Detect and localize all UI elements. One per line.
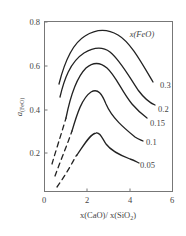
- curve-label: 0.2: [158, 104, 169, 114]
- curve-0.1: [72, 91, 143, 141]
- chart: 0.8 0.6 0.4 0.2 a(FeO) 0 2 4 6 x(CaO)/ x…: [0, 0, 186, 236]
- y-tick-label: 0.2: [29, 148, 40, 158]
- y-axis-label: a(FeO): [14, 98, 26, 117]
- x-axis: 0 2 4 6: [42, 189, 174, 206]
- curve-label: 0.1: [146, 137, 157, 147]
- curve-0.15-dashed: [52, 118, 66, 164]
- x-tick-label: 0: [42, 195, 46, 205]
- y-tick-label: 0.6: [29, 61, 40, 71]
- curve-label: 0.15: [150, 118, 165, 128]
- curve-0.05-dashed: [57, 155, 77, 187]
- x-axis-label: x(CaO)/ x(SiO2): [80, 210, 136, 221]
- curve-0.15: [66, 64, 147, 119]
- x-tick-label: 4: [128, 195, 133, 205]
- legend-title: x(FeO): [129, 29, 155, 39]
- curve-label: 0.3: [160, 80, 171, 90]
- curve-0.05: [77, 133, 139, 163]
- curve-0.1-dashed: [55, 131, 72, 176]
- y-tick-label: 0.8: [29, 17, 40, 27]
- y-tick-label: 0.4: [29, 105, 40, 115]
- x-tick-label: 6: [170, 195, 174, 205]
- curve-label: 0.05: [140, 160, 155, 170]
- curve-0.2: [60, 48, 155, 105]
- x-tick-label: 2: [85, 195, 89, 205]
